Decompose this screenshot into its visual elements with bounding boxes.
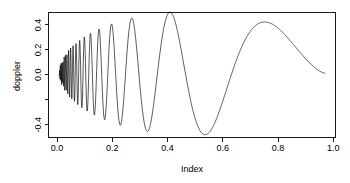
doppler-line-chart: 0.4 0.2 0.0 -0.4 doppler 0.0 0.2 0.4 0.6… <box>0 0 350 183</box>
y-tick-label-minus-0.4: -0.4 <box>33 117 43 133</box>
x-tick-label-0.8: 0.8 <box>272 143 285 153</box>
chart-figure: 0.4 0.2 0.0 -0.4 doppler 0.0 0.2 0.4 0.6… <box>0 0 350 183</box>
y-tick-label-0.2: 0.2 <box>33 44 43 57</box>
x-tick-label-0.6: 0.6 <box>216 143 229 153</box>
x-tick-label-0.2: 0.2 <box>106 143 119 153</box>
y-tick-label-0.4: 0.4 <box>33 19 43 32</box>
x-tick-label-0.4: 0.4 <box>161 143 174 153</box>
x-tick-label-1.0: 1.0 <box>327 143 340 153</box>
y-axis-title: doppler <box>12 61 22 91</box>
x-axis-title: Index <box>181 164 204 174</box>
x-tick-label-0.0: 0.0 <box>51 143 64 153</box>
y-tick-label-0.0: 0.0 <box>33 69 43 82</box>
chart-background <box>0 0 350 183</box>
